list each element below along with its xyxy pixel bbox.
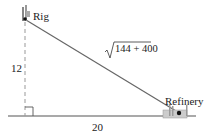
refinery-label: Refinery: [165, 96, 203, 107]
horizontal-side-label: 20: [92, 122, 103, 133]
rig-label: Rig: [33, 11, 49, 22]
hypotenuse-line: [26, 20, 176, 111]
rig-icon: [22, 5, 30, 21]
hypotenuse-label: 144 + 400: [115, 44, 158, 55]
diagram-canvas: [0, 0, 211, 136]
vertical-side-label: 12: [11, 63, 22, 74]
right-angle-marker: [25, 107, 33, 116]
